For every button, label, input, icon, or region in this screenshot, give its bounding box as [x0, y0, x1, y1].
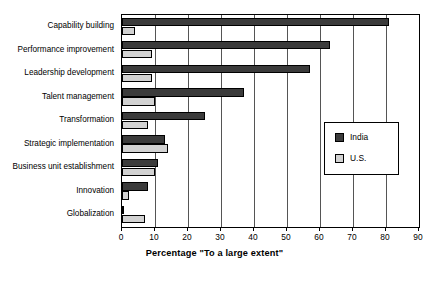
category-label: Talent management [42, 85, 114, 109]
x-tick-label: 30 [215, 232, 224, 242]
category-label: Performance improvement [18, 38, 114, 62]
bar-group [122, 203, 419, 227]
bar-chart: Capability buildingPerformance improveme… [0, 0, 429, 281]
bar-india [122, 88, 244, 96]
x-tick-mark [418, 227, 419, 231]
x-tick-mark [352, 227, 353, 231]
bar-india [122, 18, 389, 26]
x-tick-mark [187, 227, 188, 231]
plot-area [121, 14, 420, 228]
bar-india [122, 159, 158, 167]
bar-us [122, 74, 152, 82]
bar-us [122, 50, 152, 58]
bar-group [122, 39, 419, 63]
category-label: Leadership development [24, 61, 114, 85]
x-tick-mark [319, 227, 320, 231]
bar-india [122, 112, 205, 120]
bar-india [122, 206, 124, 214]
bar-group [122, 180, 419, 204]
category-label: Strategic implementation [24, 132, 114, 156]
x-tick-label: 60 [314, 232, 323, 242]
bar-india [122, 135, 165, 143]
bar-us [122, 27, 135, 35]
category-label: Innovation [76, 179, 114, 203]
bar-us [122, 97, 155, 105]
x-axis-tick-labels: 0102030405060708090 [0, 232, 429, 246]
bar-group [122, 62, 419, 86]
legend-swatch-us-icon [335, 154, 344, 163]
bar-us [122, 168, 155, 176]
legend-item-india: India [335, 132, 368, 142]
x-tick-label: 80 [380, 232, 389, 242]
x-tick-label: 50 [281, 232, 290, 242]
legend-swatch-india-icon [335, 133, 344, 142]
x-tick-label: 90 [413, 232, 422, 242]
legend-item-us: U.S. [335, 153, 366, 163]
category-label: Capability building [48, 14, 114, 38]
bar-group [122, 15, 419, 39]
x-tick-mark [220, 227, 221, 231]
x-tick-label: 70 [347, 232, 356, 242]
category-axis: Capability buildingPerformance improveme… [0, 14, 118, 226]
bar-us [122, 215, 145, 223]
bar-india [122, 65, 310, 73]
category-label: Business unit establishment [13, 155, 115, 179]
x-tick-mark [253, 227, 254, 231]
bar-group [122, 86, 419, 110]
bar-india [122, 41, 330, 49]
x-tick-mark [154, 227, 155, 231]
x-tick-label: 0 [119, 232, 124, 242]
x-tick-mark [385, 227, 386, 231]
x-tick-label: 10 [149, 232, 158, 242]
bar-us [122, 191, 129, 199]
x-tick-mark [121, 227, 122, 231]
x-axis-title: Percentage "To a large extent" [0, 248, 429, 258]
x-tick-label: 40 [248, 232, 257, 242]
bar-india [122, 182, 148, 190]
bar-us [122, 121, 148, 129]
chart-legend: India U.S. [324, 122, 399, 175]
legend-label-india: India [350, 132, 368, 142]
x-tick-label: 20 [182, 232, 191, 242]
x-tick-mark [286, 227, 287, 231]
category-label: Transformation [59, 108, 114, 132]
bar-us [122, 144, 168, 152]
category-label: Globalization [67, 202, 114, 226]
legend-label-us: U.S. [350, 153, 366, 163]
